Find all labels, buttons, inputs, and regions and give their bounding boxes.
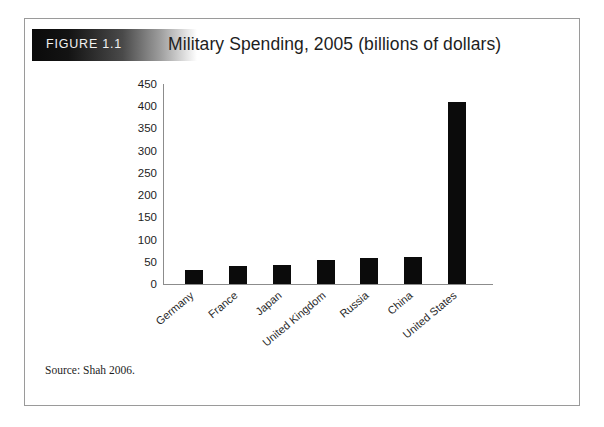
x-axis-category-label: Germany [154, 289, 196, 327]
bar [273, 265, 291, 284]
x-axis-category-label: France [206, 289, 240, 320]
x-axis-category-labels: GermanyFranceJapanUnited KingdomRussiaCh… [163, 19, 583, 139]
y-axis-tick-label: 0 [123, 278, 157, 290]
y-axis-tick-label: 150 [123, 211, 157, 223]
x-axis-category-label: Russia [338, 289, 371, 320]
bar [360, 258, 378, 284]
y-axis-tick-label: 100 [123, 234, 157, 246]
bar [317, 260, 335, 284]
y-axis-tick-labels: 450400350300250200150100500 [121, 19, 157, 407]
x-axis-line [163, 284, 493, 285]
y-axis-tick-label: 450 [123, 78, 157, 90]
bar [229, 266, 247, 284]
y-axis-tick-label: 50 [123, 256, 157, 268]
y-axis-tick-label: 400 [123, 100, 157, 112]
y-axis-tick-label: 350 [123, 122, 157, 134]
x-axis-category-label: China [385, 289, 415, 317]
figure-frame: FIGURE 1.1 Military Spending, 2005 (bill… [24, 18, 580, 406]
y-axis-tick-label: 200 [123, 189, 157, 201]
y-axis-tick-label: 300 [123, 145, 157, 157]
bar [185, 270, 203, 284]
x-axis-category-label: Japan [253, 289, 284, 317]
y-axis-tick-label: 250 [123, 167, 157, 179]
bar [404, 257, 422, 284]
chart-plot-area: 450400350300250200150100500 GermanyFranc… [25, 19, 581, 407]
source-note: Source: Shah 2006. [45, 364, 135, 376]
